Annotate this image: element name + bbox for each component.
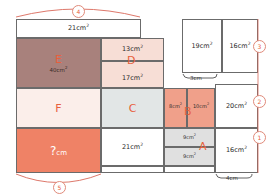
region-C-letter: C — [129, 103, 137, 114]
marker-5[interactable]: 5 — [53, 181, 66, 194]
marker-3[interactable]: 3 — [253, 40, 266, 53]
region-A-letter: A — [199, 141, 207, 152]
region-top-right-1: 19cm2 — [182, 19, 222, 73]
region-unknown-value: ?cm — [50, 145, 67, 157]
region-bottom-sliver — [101, 166, 164, 173]
dim-3cm: 3cm — [190, 75, 202, 81]
region-F: F — [16, 88, 101, 128]
region-bottom-right: 16cm2 — [215, 128, 258, 173]
region-F-letter: F — [55, 103, 61, 114]
region-A-top: 9cm2 — [164, 128, 215, 147]
region-E: E 40cm2 — [16, 38, 101, 88]
region-B-left-area: 8cm2 — [169, 104, 182, 109]
region-unknown: ?cm — [16, 128, 101, 173]
marker-1[interactable]: 1 — [253, 131, 266, 144]
diagram-canvas: 21cm2 E 40cm2 13cm2 17cm2 D F C ?cm — [0, 0, 274, 195]
region-A-bottom: 9cm2 — [164, 147, 215, 166]
region-A-bottom-area: 9cm2 — [183, 154, 196, 159]
region-mid-right: 20cm2 — [215, 84, 258, 128]
region-A-sliver — [164, 166, 215, 173]
region-C-below-area: 21cm2 — [122, 144, 143, 151]
region-bottom-right-area: 16cm2 — [226, 147, 247, 154]
region-top-strip: 21cm2 — [16, 19, 141, 38]
region-B-right-area: 10cm2 — [193, 104, 209, 109]
region-top-strip-area: 21cm2 — [68, 25, 89, 32]
region-B-letter: B — [184, 106, 192, 117]
region-top-right-1-area: 19cm2 — [191, 43, 212, 50]
marker-2[interactable]: 2 — [253, 95, 266, 108]
region-mid-right-area: 20cm2 — [226, 103, 247, 110]
marker-4[interactable]: 4 — [72, 5, 85, 18]
region-C-below: 21cm2 — [101, 128, 164, 166]
region-C: C — [101, 88, 164, 128]
region-D-bottom-area: 17cm2 — [122, 75, 143, 82]
region-A-top-area: 9cm2 — [183, 135, 196, 140]
region-E-area: 40cm2 — [50, 65, 68, 73]
dim-4cm: 4cm — [226, 175, 238, 181]
region-E-letter: E — [55, 54, 62, 65]
region-D-letter: D — [127, 55, 135, 66]
region-D-top-area: 13cm2 — [122, 46, 143, 53]
region-top-right-2-area: 16cm2 — [229, 43, 250, 50]
